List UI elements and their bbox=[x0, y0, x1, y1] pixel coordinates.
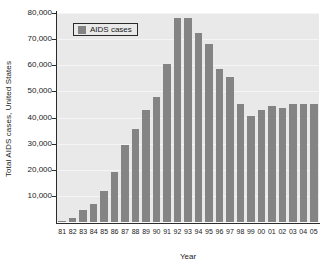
x-axis-tick-label: 94 bbox=[193, 227, 203, 236]
bar bbox=[310, 104, 318, 222]
bar bbox=[195, 33, 203, 222]
x-axis-line bbox=[56, 223, 320, 224]
x-axis-tick-label: 90 bbox=[151, 227, 161, 236]
y-axis-tick-label: 20,000 bbox=[28, 166, 52, 174]
y-axis-tick-label: 10,000 bbox=[28, 192, 52, 200]
x-axis-tick-label: 95 bbox=[204, 227, 214, 236]
bar bbox=[184, 18, 192, 222]
y-axis-tick-label: 70,000 bbox=[28, 35, 52, 43]
bar bbox=[79, 210, 87, 222]
x-axis-tick-label: 82 bbox=[67, 227, 77, 236]
bar bbox=[237, 104, 245, 222]
y-axis-tick-labels: 10,00020,00030,00040,00050,00060,00070,0… bbox=[14, 8, 54, 228]
x-axis-tick-label: 03 bbox=[288, 227, 298, 236]
bar bbox=[268, 106, 276, 222]
x-axis-tick-label: 98 bbox=[235, 227, 245, 236]
y-axis-tick-mark bbox=[52, 196, 57, 197]
x-axis-tick-label: 92 bbox=[172, 227, 182, 236]
y-axis-tick-mark bbox=[52, 65, 57, 66]
y-axis-tick-mark bbox=[52, 170, 57, 171]
bar bbox=[300, 104, 308, 222]
legend-item-label: AIDS cases bbox=[90, 26, 132, 34]
x-axis-tick-label: 91 bbox=[162, 227, 172, 236]
y-axis-tick-label: 30,000 bbox=[28, 140, 52, 148]
y-axis-tick-label: 40,000 bbox=[28, 114, 52, 122]
x-axis-tick-label: 86 bbox=[109, 227, 119, 236]
x-axis-tick-label: 84 bbox=[88, 227, 98, 236]
bar bbox=[142, 110, 150, 222]
bar-series bbox=[57, 13, 319, 222]
x-axis-tick-label: 89 bbox=[141, 227, 151, 236]
x-axis-tick-label: 85 bbox=[99, 227, 109, 236]
x-axis-tick-labels: 8182838485868788899091929394959697989900… bbox=[57, 227, 319, 237]
x-axis-tick-label: 88 bbox=[130, 227, 140, 236]
y-axis-tick-label: 50,000 bbox=[28, 87, 52, 95]
x-axis-tick-label: 99 bbox=[246, 227, 256, 236]
x-axis-tick-label: 96 bbox=[214, 227, 224, 236]
y-axis-tick-label: 60,000 bbox=[28, 61, 52, 69]
bar bbox=[58, 221, 66, 222]
bar bbox=[289, 104, 297, 222]
y-axis-tick-mark bbox=[52, 91, 57, 92]
y-axis-tick-mark bbox=[52, 39, 57, 40]
bar bbox=[258, 110, 266, 222]
x-axis-tick-label: 87 bbox=[120, 227, 130, 236]
bar bbox=[163, 64, 171, 222]
x-axis-tick-label: 04 bbox=[298, 227, 308, 236]
y-axis-tick-label: 80,000 bbox=[28, 9, 52, 17]
bar bbox=[226, 77, 234, 222]
bar bbox=[153, 97, 161, 222]
bar bbox=[69, 218, 77, 222]
bar bbox=[216, 69, 224, 222]
aids-cases-bar-chart: Total AIDS cases, United States 10,00020… bbox=[0, 0, 326, 274]
bar bbox=[132, 129, 140, 222]
x-axis-title: Year bbox=[57, 252, 319, 261]
x-axis-tick-label: 01 bbox=[267, 227, 277, 236]
x-axis-tick-label: 93 bbox=[183, 227, 193, 236]
bar bbox=[111, 172, 119, 222]
x-axis-tick-label: 81 bbox=[57, 227, 67, 236]
x-axis-tick-label: 02 bbox=[277, 227, 287, 236]
y-axis-tick-mark bbox=[52, 144, 57, 145]
x-axis-tick-label: 05 bbox=[309, 227, 319, 236]
bar bbox=[205, 44, 213, 222]
x-axis-tick-label: 83 bbox=[78, 227, 88, 236]
legend-swatch-icon bbox=[78, 26, 86, 34]
y-axis-tick-mark bbox=[52, 13, 57, 14]
bar bbox=[174, 18, 182, 222]
bar bbox=[100, 191, 108, 222]
bar bbox=[279, 108, 287, 222]
y-axis-tick-mark bbox=[52, 118, 57, 119]
bar bbox=[247, 116, 255, 222]
chart-legend: AIDS cases bbox=[73, 23, 138, 36]
bar bbox=[90, 204, 98, 222]
x-axis-tick-label: 00 bbox=[256, 227, 266, 236]
bar bbox=[121, 145, 129, 222]
x-axis-tick-label: 97 bbox=[225, 227, 235, 236]
